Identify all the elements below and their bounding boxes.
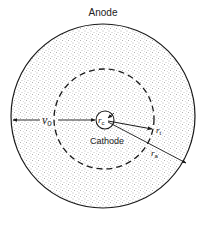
anode-label: Anode <box>89 7 118 18</box>
cathode-label: Cathode <box>90 136 124 146</box>
diagram-canvas: Anode v0 rc rt ra Cathode <box>0 0 209 227</box>
